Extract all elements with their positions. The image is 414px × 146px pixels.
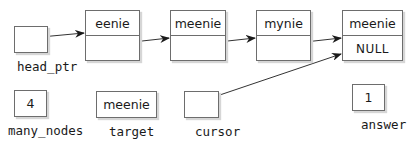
node-link bbox=[86, 36, 139, 61]
list-node-3: mynie bbox=[256, 10, 311, 61]
head-ptr-box bbox=[14, 26, 48, 53]
target-label: target bbox=[109, 124, 154, 139]
node-data: eenie bbox=[86, 11, 139, 36]
many-nodes-box: 4 bbox=[14, 90, 47, 117]
node-link bbox=[171, 36, 225, 61]
node-data: meenie bbox=[171, 11, 225, 36]
node-data: mynie bbox=[257, 11, 310, 36]
arrow-cursor bbox=[202, 54, 341, 101]
node-data: meenie bbox=[343, 11, 402, 36]
list-node-1: eenie bbox=[85, 10, 140, 61]
cursor-box bbox=[184, 91, 219, 118]
many-nodes-label: many_nodes bbox=[8, 123, 83, 138]
list-node-4: meenie NULL bbox=[342, 10, 403, 61]
cursor-label: cursor bbox=[195, 124, 240, 139]
answer-label: answer bbox=[361, 117, 406, 132]
node-link bbox=[257, 36, 310, 61]
head-ptr-label: head_ptr bbox=[17, 59, 77, 74]
node-link-null: NULL bbox=[343, 36, 402, 61]
answer-box: 1 bbox=[352, 84, 385, 111]
target-box: meenie bbox=[96, 91, 157, 118]
list-node-2: meenie bbox=[170, 10, 226, 61]
